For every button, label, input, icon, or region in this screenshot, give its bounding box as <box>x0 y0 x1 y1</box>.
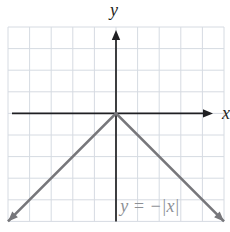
y-axis-label: y <box>108 0 118 20</box>
equation-label: y = −|x| <box>118 196 179 216</box>
axes <box>12 30 213 221</box>
figure-y-equals-negative-abs-x: y x y = −|x| <box>0 0 230 232</box>
x-axis-label: x <box>221 103 230 123</box>
plot-svg: y x y = −|x| <box>0 0 230 232</box>
